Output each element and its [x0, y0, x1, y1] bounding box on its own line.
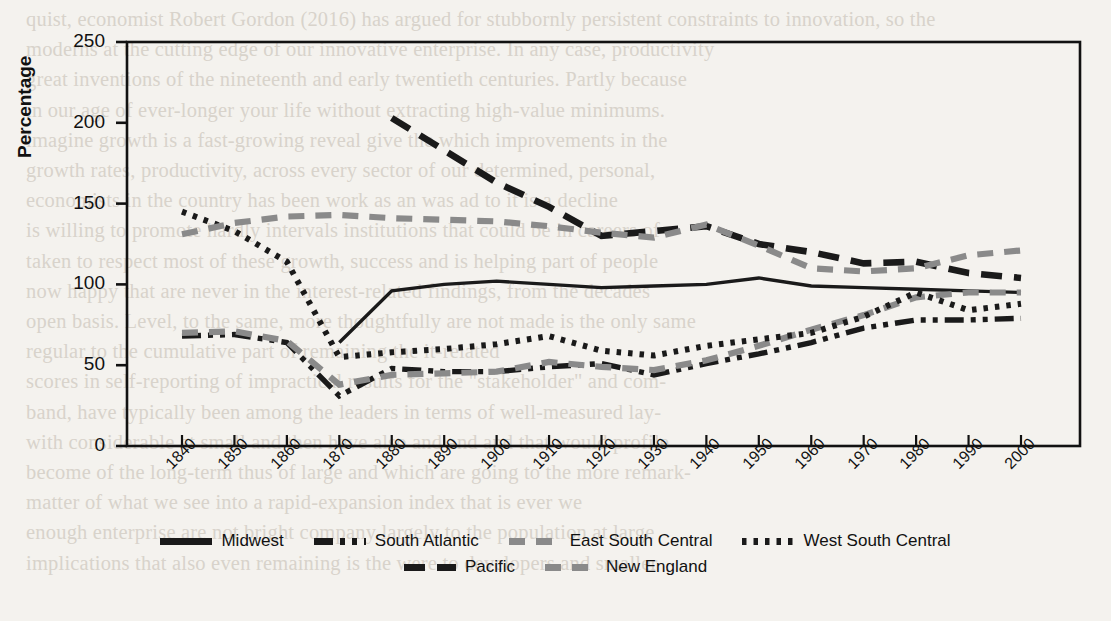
legend-label: Midwest: [221, 531, 283, 551]
series-line-east-south-central: [182, 292, 1021, 384]
legend-item-south-atlantic[interactable]: South Atlantic: [314, 531, 479, 551]
legend-label: Pacific: [465, 557, 515, 577]
legend-key-icon: [545, 561, 597, 574]
legend-item-new-england[interactable]: New England: [545, 557, 707, 577]
y-tick-label: 150: [43, 192, 105, 214]
series-line-south-atlantic: [182, 318, 1021, 396]
data-series-group: [182, 118, 1021, 396]
legend-item-east-south-central[interactable]: East South Central: [509, 531, 713, 551]
legend-label: West South Central: [803, 531, 950, 551]
legend-key-icon: [509, 535, 561, 548]
series-line-midwest: [339, 278, 1021, 343]
legend-label: East South Central: [570, 531, 713, 551]
y-axis-label: Percentage: [14, 56, 36, 158]
chart-legend: MidwestSouth AtlanticEast South CentralW…: [0, 528, 1111, 580]
legend-key-icon: [160, 535, 212, 548]
y-tick-label: 50: [43, 353, 105, 375]
plot-frame: [127, 42, 1080, 446]
y-tick-label: 250: [43, 30, 105, 52]
legend-label: New England: [606, 557, 707, 577]
axis-ticks: [116, 42, 1021, 446]
legend-key-icon: [404, 561, 456, 574]
legend-item-pacific[interactable]: Pacific: [404, 557, 515, 577]
legend-item-midwest[interactable]: Midwest: [160, 531, 283, 551]
legend-row: PacificNew England: [0, 554, 1111, 580]
legend-key-icon: [742, 535, 794, 548]
legend-label: South Atlantic: [375, 531, 479, 551]
series-line-pacific: [392, 118, 1021, 278]
y-tick-label: 0: [43, 434, 105, 456]
y-tick-label: 100: [43, 272, 105, 294]
y-tick-label: 200: [43, 111, 105, 133]
legend-row: MidwestSouth AtlanticEast South CentralW…: [0, 528, 1111, 554]
legend-key-icon: [314, 535, 366, 548]
legend-item-west-south-central[interactable]: West South Central: [742, 531, 950, 551]
